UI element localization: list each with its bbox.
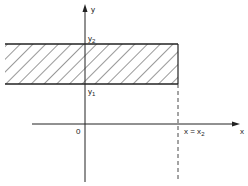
hatched-region	[5, 44, 178, 84]
diagram: y x 0 y2 y1 x = x2	[0, 0, 248, 186]
x2-label: x = x2	[184, 127, 205, 137]
y1-label: y1	[88, 87, 96, 97]
y2-label: y2	[88, 34, 96, 44]
y-axis-arrow-icon	[83, 4, 88, 12]
origin-label: 0	[76, 127, 81, 136]
y-axis-label: y	[91, 5, 95, 14]
x-axis-label: x	[240, 127, 244, 136]
x-axis-arrow-icon	[232, 122, 240, 127]
